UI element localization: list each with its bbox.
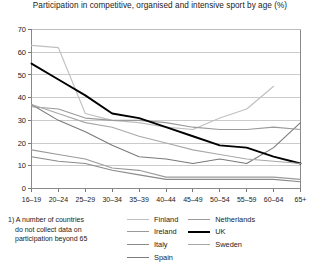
legend-item-italy[interactable]: Italy <box>127 239 178 250</box>
legend-line-swatch <box>127 231 149 232</box>
x-tick-label: 45–49 <box>183 196 203 203</box>
y-tick-label: 30 <box>18 116 26 125</box>
gridlines <box>32 30 301 189</box>
y-tick-label: 50 <box>18 71 26 80</box>
footnote-line-2: do not collect data on <box>8 225 120 235</box>
legend-line-swatch <box>188 244 210 245</box>
legend-label: Spain <box>154 253 173 262</box>
legend-item-finland[interactable]: Finland <box>127 214 178 225</box>
data-series-group <box>32 45 301 181</box>
y-tick-label: 70 <box>18 25 26 34</box>
y-tick-label: 10 <box>18 161 26 170</box>
legend-column-2: NetherlandsUKSweden <box>188 214 255 263</box>
series-line-ireland <box>32 150 301 180</box>
y-tick-label: 20 <box>18 139 26 148</box>
legend-item-spain[interactable]: Spain <box>127 252 178 263</box>
y-tick-label: 60 <box>18 48 26 57</box>
legend-line-swatch <box>127 219 149 220</box>
line-chart-svg: 010203040506070 16–1920–2425–2930–3435–3… <box>0 0 320 210</box>
y-axis-ticks: 010203040506070 <box>18 25 32 193</box>
legend-item-sweden[interactable]: Sweden <box>188 239 255 250</box>
chart-container: Participation in competitive, organised … <box>0 0 320 267</box>
x-tick-label: 16–19 <box>22 196 42 203</box>
x-tick-label: 60–64 <box>264 196 284 203</box>
legend-line-swatch <box>127 257 149 258</box>
chart-legend: FinlandIrelandItalySpain NetherlandsUKSw… <box>127 214 255 263</box>
y-tick-label: 0 <box>22 184 26 193</box>
footnote-line-3: participation beyond 65 <box>8 234 120 244</box>
x-tick-label: 65+ <box>295 196 307 203</box>
x-tick-label: 50–54 <box>210 196 230 203</box>
legend-label: Ireland <box>154 227 177 236</box>
plot-area: 010203040506070 16–1920–2425–2930–3435–3… <box>0 0 320 210</box>
x-tick-label: 40–44 <box>156 196 176 203</box>
x-tick-label: 35–39 <box>129 196 149 203</box>
legend-label: Finland <box>154 215 178 224</box>
legend-item-netherlands[interactable]: Netherlands <box>188 214 255 225</box>
legend-label: Italy <box>154 240 168 249</box>
y-tick-label: 40 <box>18 93 26 102</box>
legend-item-uk[interactable]: UK <box>188 227 255 238</box>
legend-label: Netherlands <box>215 215 255 224</box>
plot-frame <box>32 30 301 189</box>
x-tick-label: 25–29 <box>76 196 96 203</box>
legend-line-swatch <box>188 231 210 233</box>
footnote: 1) A number of countries do not collect … <box>8 215 120 244</box>
footnote-line-1: 1) A number of countries <box>8 215 120 225</box>
x-tick-label: 55–59 <box>237 196 257 203</box>
legend-line-swatch <box>188 219 210 220</box>
legend-label: Sweden <box>215 240 242 249</box>
x-axis-ticks: 16–1920–2425–2930–3435–3940–4445–4950–54… <box>22 189 307 203</box>
legend-line-swatch <box>127 244 149 245</box>
legend-item-ireland[interactable]: Ireland <box>127 227 178 238</box>
legend-label: UK <box>215 227 225 236</box>
legend-column-1: FinlandIrelandItalySpain <box>127 214 178 263</box>
x-tick-label: 30–34 <box>102 196 122 203</box>
x-tick-label: 20–24 <box>49 196 69 203</box>
